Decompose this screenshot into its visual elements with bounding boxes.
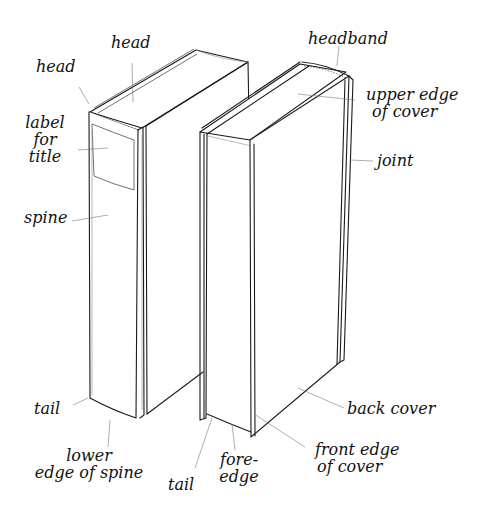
label-head-top: head: [111, 34, 151, 51]
leader-joint: [350, 160, 373, 161]
leader-lower-edge-of-spine: [108, 420, 110, 447]
label-back-cover: back cover: [347, 400, 435, 417]
leader-headband: [337, 46, 339, 66]
leader-back-cover: [298, 388, 344, 408]
leader-tail-left: [73, 398, 88, 405]
label-front-edge-line-2: of cover: [315, 458, 399, 475]
label-tail-right: tail: [168, 476, 194, 493]
label-for-title-line-3: title: [22, 148, 68, 165]
label-lower-edge-line-1: lower: [30, 447, 148, 464]
right-book-front-cover-edge: [200, 132, 207, 420]
label-upper-edge-of-cover: upper edge of cover: [366, 86, 458, 120]
left-book-joint-lines: [138, 126, 147, 418]
left-book-spine: [89, 112, 138, 418]
label-fore-edge: fore- edge: [216, 451, 262, 485]
book-parts-diagram: head head label for title spine tail low…: [0, 0, 485, 527]
label-for-title-line-2: for: [22, 131, 68, 148]
right-book-back-cover: [250, 76, 349, 437]
label-headband: headband: [308, 30, 388, 47]
leader-front-edge-of-cover: [254, 414, 305, 447]
label-lower-edge-line-2: edge of spine: [30, 464, 148, 481]
leader-head-spine: [79, 87, 89, 104]
left-book: [89, 49, 249, 418]
label-fore-edge-line-2: edge: [216, 468, 262, 485]
label-upper-edge-line-1: upper edge: [366, 86, 458, 103]
label-fore-edge-line-1: fore-: [216, 451, 262, 468]
right-book-fore-edge-bottom: [207, 414, 251, 432]
label-lower-edge-of-spine: lower edge of spine: [30, 447, 148, 481]
label-for-title-line-1: label: [22, 114, 68, 131]
leader-tail-right: [195, 418, 212, 468]
label-front-edge-of-cover: front edge of cover: [315, 441, 399, 475]
label-front-edge-line-1: front edge: [315, 441, 399, 458]
label-tail-left: tail: [34, 400, 60, 417]
label-joint: joint: [377, 152, 413, 169]
right-book: [200, 62, 353, 437]
label-head-spine: head: [36, 58, 76, 75]
label-spine: spine: [24, 209, 67, 226]
label-upper-edge-line-2: of cover: [366, 103, 458, 120]
leader-fore-edge: [232, 424, 235, 450]
label-for-title: label for title: [22, 114, 68, 165]
